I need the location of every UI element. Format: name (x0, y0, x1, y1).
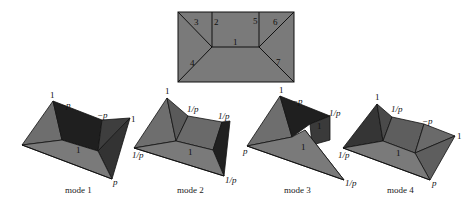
mode-1-label-top-right: −p (97, 110, 108, 120)
crease-label-7: 7 (276, 57, 281, 67)
mode-1-label-bottom-right: p (112, 177, 118, 187)
mode-3-label-apex: 1 (279, 85, 284, 95)
mode-1-label-right: 1 (131, 114, 136, 124)
mode-3-label-top-right: 1/p (329, 108, 341, 118)
mode-4-label-right: 1 (457, 131, 462, 141)
mode-1-caption: mode 1 (65, 185, 92, 195)
mode-3-label-top-left: −p (292, 96, 303, 106)
mode-4-label-apex: 1 (375, 92, 380, 102)
mode-3-label-left: p (242, 146, 248, 156)
mode-4-label-bottom-right: p (431, 178, 437, 188)
crease-label-2: 2 (214, 17, 219, 27)
mode-4-caption: mode 4 (387, 185, 414, 195)
mode-4-shape (343, 104, 455, 180)
crease-label-5: 5 (253, 16, 258, 26)
mode-3-label-center: 1 (301, 142, 306, 152)
crease-pattern: 3 2 5 6 1 4 7 (178, 12, 294, 82)
mode-2-label-top-right: 1/p (218, 111, 230, 121)
mode-3-label-inner: 1 (317, 121, 322, 131)
crease-label-6: 6 (273, 17, 278, 27)
mode-4-label-center: 1 (396, 148, 401, 158)
mode-1-label-center: 1 (76, 145, 81, 155)
mode-2-label-center: 1 (188, 147, 193, 157)
mode-2-shape (134, 98, 230, 176)
mode-2-label-top-left: 1/p (187, 104, 199, 114)
mode-3-caption: mode 3 (284, 185, 311, 195)
mode-2-label-left: 1/p (132, 150, 144, 160)
mode-1-label-apex: 1 (50, 90, 55, 100)
mode-3-label-bottom-right: 1/p (345, 178, 357, 188)
crease-label-3: 3 (194, 17, 199, 27)
mode-4-label-top-right: −p (422, 116, 433, 126)
mode-1-label-top-left: −p (60, 100, 71, 110)
mode-4-label-top-left: 1/p (391, 104, 403, 114)
mode-4-label-left: 1/p (338, 150, 350, 160)
mode-1-shape (22, 101, 130, 179)
mode-2-label-bottom-right: 1/p (225, 175, 237, 185)
mode-2-label-apex: 1 (165, 86, 170, 96)
diagram-canvas: 3 2 5 6 1 4 7 1 −p −p 1 1 p mode 1 (0, 0, 476, 203)
crease-label-4: 4 (190, 58, 195, 68)
crease-label-1: 1 (233, 37, 238, 47)
mode-2-caption: mode 2 (177, 185, 204, 195)
